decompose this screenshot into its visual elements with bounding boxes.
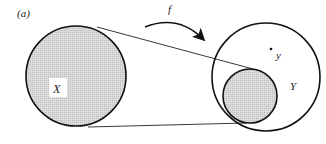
point-label: y xyxy=(275,49,281,61)
diagram-figure: (a) f X y Y xyxy=(0,0,326,144)
domain-label: X xyxy=(52,82,61,96)
map-label: f xyxy=(168,3,173,15)
diagram-labels: (a) f X y Y xyxy=(0,0,326,144)
panel-label: (a) xyxy=(17,7,30,20)
codomain-label: Y xyxy=(290,80,298,92)
